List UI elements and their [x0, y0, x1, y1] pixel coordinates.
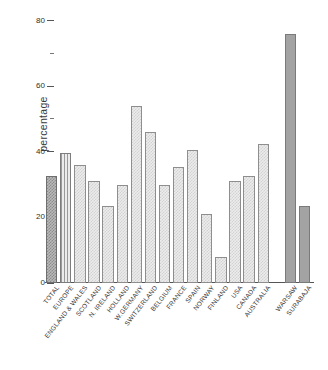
x-axis-label-text: EUROPE	[51, 284, 74, 311]
x-axis-label: SURABAJA	[285, 284, 313, 317]
x-axis-label: WARSAW	[274, 284, 298, 313]
x-axis-label: N. IRELAND	[87, 284, 116, 319]
x-axis-label: HOLLAND	[105, 284, 130, 314]
x-axis-label: AUSTRALIA	[243, 284, 272, 318]
bar	[258, 144, 269, 283]
bar	[173, 167, 184, 283]
x-axis-label-text: HOLLAND	[105, 284, 130, 314]
bar	[88, 181, 99, 283]
x-axis-label-text: USA	[229, 284, 243, 299]
bar	[285, 34, 296, 283]
plot-area	[45, 14, 320, 283]
x-axis-label-text: TOTAL	[42, 284, 61, 305]
bar	[145, 132, 156, 283]
bar	[201, 214, 212, 283]
x-axis-label: EUROPE	[51, 284, 74, 311]
bar	[243, 176, 254, 283]
x-axis-label: FINLAND	[206, 284, 230, 311]
y-tick-label: 80	[36, 16, 45, 26]
x-axis-labels: TOTALEUROPEENGLAND & WALESSCOTLANDN. IRE…	[45, 284, 320, 368]
x-axis-label-text: NORWAY	[192, 284, 216, 312]
bar	[159, 185, 170, 283]
x-axis-label-text: N. IRELAND	[87, 284, 116, 319]
x-axis-label-text: W.GERMANY	[113, 284, 145, 322]
x-axis-label: SWITZERLAND	[123, 284, 159, 327]
x-axis-label-text: ENGLAND & WALES	[43, 284, 88, 339]
x-axis-label: W.GERMANY	[113, 284, 145, 322]
x-axis-label-text: SWITZERLAND	[123, 284, 159, 327]
bar	[60, 153, 71, 283]
bar	[131, 106, 142, 283]
bar	[299, 206, 310, 283]
x-axis-label: SPAIN	[183, 284, 201, 304]
bar	[215, 257, 226, 283]
x-axis-label: ENGLAND & WALES	[43, 284, 88, 339]
y-tick-label: 60	[36, 81, 45, 91]
x-axis-label-text: AUSTRALIA	[243, 284, 272, 318]
x-axis-label: TOTAL	[42, 284, 61, 305]
bar-chart: percentage 020406080 TOTALEUROPEENGLAND …	[0, 0, 328, 370]
x-axis-label-text: SPAIN	[183, 284, 201, 304]
bar	[187, 150, 198, 283]
y-tick-label: 20	[36, 212, 45, 222]
bar	[102, 206, 113, 283]
x-axis-label-text: SURABAJA	[285, 284, 313, 317]
x-axis-label-text: SCOTLAND	[74, 284, 102, 317]
bar	[229, 181, 240, 283]
bar	[46, 176, 57, 283]
x-axis-label: BELGIUM	[149, 284, 173, 312]
x-axis-label: SCOTLAND	[74, 284, 102, 317]
x-axis-label: FRANCE	[164, 284, 187, 310]
x-axis-label: USA	[229, 284, 243, 299]
x-axis-label-text: BELGIUM	[149, 284, 173, 312]
x-axis-label: CANADA	[235, 284, 258, 311]
bar	[117, 185, 128, 283]
y-tick-label: 40	[36, 147, 45, 157]
x-axis-label-text: FRANCE	[164, 284, 187, 310]
x-axis-label-text: WARSAW	[274, 284, 298, 313]
x-axis-label-text: FINLAND	[206, 284, 230, 311]
x-axis-label: NORWAY	[192, 284, 216, 312]
x-axis-label-text: CANADA	[235, 284, 258, 311]
bar	[74, 165, 85, 283]
